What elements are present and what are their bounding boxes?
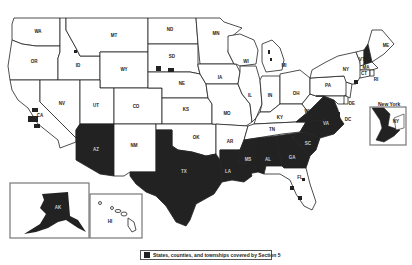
state-mt [66,18,148,56]
svg-text:MO: MO [223,111,231,116]
state-ia [198,64,240,84]
svg-text:CT: CT [361,71,367,76]
svg-text:CO: CO [133,104,140,109]
svg-text:IL: IL [248,93,252,98]
ny-inset-label: NY [393,119,399,124]
svg-text:VA: VA [323,121,330,126]
svg-text:OH: OH [293,91,300,96]
svg-text:ID: ID [76,63,81,68]
svg-text:IA: IA [218,75,223,80]
us-map-svg: WA OR ID MT WY NV UT CO ND SD NE KS OK N… [0,0,412,265]
svg-text:OK: OK [193,135,201,140]
svg-text:CA: CA [37,113,44,118]
svg-text:FL: FL [297,175,303,180]
svg-text:MT: MT [111,33,118,38]
svg-text:NV: NV [59,101,65,106]
legend-label: States, counties, and townships covered … [153,252,281,258]
svg-text:GA: GA [289,155,297,160]
svg-text:WY: WY [120,67,127,72]
hawaii-label: HI [108,219,113,224]
svg-text:UT: UT [93,103,99,108]
svg-text:SD: SD [169,54,176,59]
svg-text:AK: AK [55,205,62,210]
svg-text:NE: NE [179,81,185,86]
svg-text:DE: DE [349,101,355,106]
svg-text:WI: WI [243,59,249,64]
map-legend: States, counties, and townships covered … [140,250,272,260]
svg-text:AL: AL [265,157,271,162]
svg-text:RI: RI [374,77,379,82]
svg-text:KY: KY [277,115,283,120]
section5-coverage-map: WA OR ID MT WY NV UT CO ND SD NE KS OK N… [0,0,412,265]
state-nj [346,82,352,98]
state-nm [114,124,156,176]
svg-text:MS: MS [245,157,252,162]
svg-text:OR: OR [31,59,39,64]
svg-text:PA: PA [325,83,332,88]
svg-text:NM: NM [131,143,138,148]
svg-text:SC: SC [305,141,312,146]
legend-swatch [144,252,150,258]
new-york-inset-title: New York [378,101,400,107]
svg-text:DC: DC [345,117,352,122]
svg-text:IN: IN [268,93,273,98]
svg-text:TN: TN [269,127,275,132]
svg-text:ND: ND [167,27,174,32]
svg-text:MI: MI [282,63,287,68]
svg-text:WV: WV [304,109,311,114]
svg-text:AZ: AZ [93,147,99,152]
state-de [344,96,348,104]
state-oh [280,70,310,104]
state-ri [370,70,374,76]
svg-text:LA: LA [225,169,232,174]
svg-text:WA: WA [34,29,42,34]
svg-text:KS: KS [183,107,189,112]
svg-text:AR: AR [227,139,234,144]
svg-text:NY: NY [343,67,349,72]
svg-text:MN: MN [213,31,220,36]
hawaii-inset-frame [90,194,142,238]
svg-text:VT: VT [359,57,365,62]
svg-text:ME: ME [383,43,390,48]
svg-text:TX: TX [181,169,187,174]
state-me [368,30,394,62]
svg-text:MA: MA [363,65,371,70]
